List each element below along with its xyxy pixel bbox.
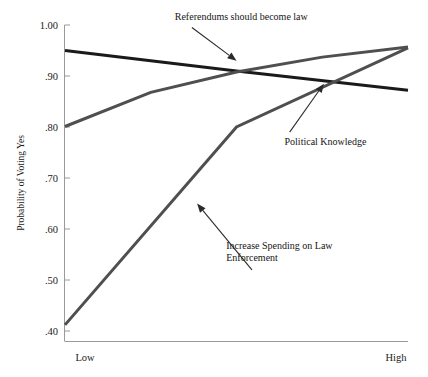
y-tick-label-2: .90 <box>45 71 58 82</box>
y-tick-label-1: 1.00 <box>40 20 58 31</box>
y-tick-label-3: .80 <box>45 122 58 133</box>
y-tick-label-6: .50 <box>45 275 58 286</box>
y-tick-label-4: .70 <box>45 173 58 184</box>
x-tick-label-high: High <box>386 352 408 363</box>
x-tick-label-low: Low <box>75 352 95 363</box>
chart-page: 1.00 .90 .80 .70 .60 .50 .40 Probability… <box>0 0 428 377</box>
y-axis-title: Probability of Voting Yes <box>16 135 26 231</box>
y-tick-label-7: .40 <box>45 326 58 337</box>
y-tick-label-5: .60 <box>45 224 58 235</box>
referendums-annotation-label: Referendums should become law <box>175 11 309 22</box>
line-chart: 1.00 .90 .80 .70 .60 .50 .40 Probability… <box>0 0 428 377</box>
political-knowledge-annotation-label: Political Knowledge <box>285 136 367 147</box>
